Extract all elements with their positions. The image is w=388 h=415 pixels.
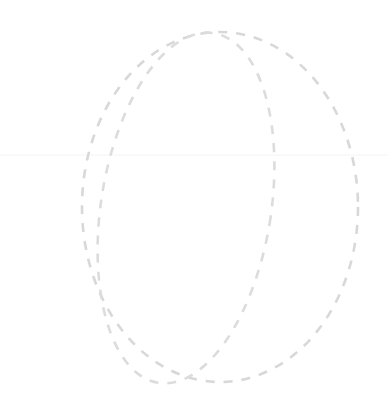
figure-canvas [0, 0, 388, 415]
canvas-background [0, 0, 388, 415]
ellipses-figure [0, 0, 388, 415]
